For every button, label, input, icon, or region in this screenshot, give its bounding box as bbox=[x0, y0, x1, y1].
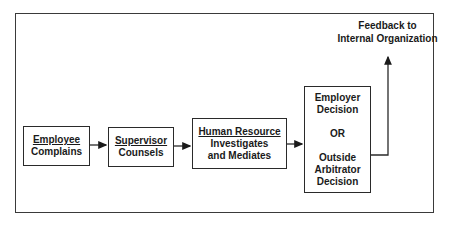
node-title: Human Resource bbox=[198, 126, 280, 138]
feedback-line: Feedback to bbox=[320, 19, 449, 32]
node-line: and Mediates bbox=[208, 150, 271, 162]
node-title: Employee bbox=[33, 134, 80, 146]
node-line: Investigates bbox=[211, 138, 269, 150]
node-subtitle: Complains bbox=[31, 146, 82, 158]
node-human-resource: Human Resource Investigates and Mediates bbox=[192, 118, 287, 169]
node-supervisor-counsels: Supervisor Counsels bbox=[108, 127, 174, 167]
node-line: Employer bbox=[315, 92, 361, 104]
node-line: Outside bbox=[319, 152, 356, 164]
node-line: Arbitrator bbox=[314, 164, 360, 176]
node-or-label: OR bbox=[330, 128, 345, 140]
node-line: Decision bbox=[317, 176, 359, 188]
arrow-decision-to-feedback bbox=[370, 57, 388, 155]
node-decision: Employer Decision OR Outside Arbitrator … bbox=[304, 86, 371, 193]
node-line: Decision bbox=[317, 104, 359, 116]
feedback-label: Feedback to Internal Organization bbox=[320, 19, 449, 45]
feedback-line: Internal Organization bbox=[320, 32, 449, 45]
node-subtitle: Counsels bbox=[118, 147, 163, 159]
node-employee-complains: Employee Complains bbox=[23, 126, 90, 166]
node-title: Supervisor bbox=[115, 135, 167, 147]
